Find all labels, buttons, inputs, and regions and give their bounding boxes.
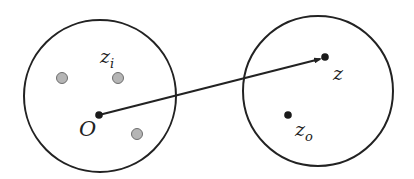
vector-o-to-z bbox=[99, 59, 320, 115]
origin-label: O bbox=[79, 117, 96, 141]
target-point-z bbox=[321, 53, 329, 61]
inner-point-2 bbox=[113, 73, 124, 84]
origin-point bbox=[95, 111, 103, 119]
target-label-z: z bbox=[332, 62, 344, 84]
diagram-canvas: zi O z zo bbox=[0, 0, 414, 179]
inner-point-3 bbox=[132, 129, 143, 140]
other-label-zo: zo bbox=[294, 118, 313, 144]
other-point-zo bbox=[284, 111, 292, 119]
right-region-circle bbox=[243, 16, 393, 166]
inner-point-1 bbox=[57, 73, 68, 84]
inner-points-label: zi bbox=[99, 45, 114, 71]
left-region-circle bbox=[24, 20, 176, 172]
